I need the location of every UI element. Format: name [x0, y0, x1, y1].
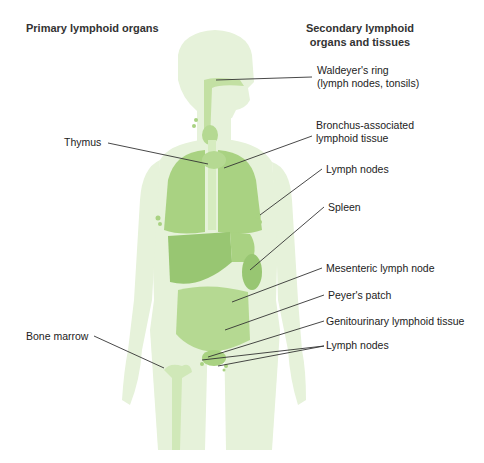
label-peyers-patch: Peyer's patch — [328, 289, 391, 302]
heading-secondary-line2: organs and tissues — [300, 35, 420, 49]
axillary-lymph-node-right — [256, 214, 261, 219]
label-lymph-nodes-inguinal: Lymph nodes — [326, 339, 389, 352]
label-waldeyers-ring: Waldeyer's ring (lymph nodes, tonsils) — [317, 64, 419, 90]
label-thymus: Thymus — [64, 136, 101, 149]
label-balt-line1: Bronchus-associated — [316, 119, 414, 132]
heading-secondary-line1: Secondary lymphoid — [300, 21, 420, 35]
inguinal-lymph-node — [200, 362, 204, 366]
heading-primary: Primary lymphoid organs — [26, 21, 159, 35]
label-spleen: Spleen — [328, 201, 361, 214]
label-genitourinary: Genitourinary lymphoid tissue — [326, 315, 464, 328]
label-waldeyers-line2: (lymph nodes, tonsils) — [317, 77, 419, 90]
label-balt-line2: lymphoid tissue — [316, 132, 414, 145]
intestines — [176, 286, 250, 352]
thymus — [202, 151, 226, 169]
label-bone-marrow: Bone marrow — [26, 330, 88, 343]
spleen — [242, 254, 262, 290]
cervical-lymph-node — [194, 118, 198, 122]
heading-secondary: Secondary lymphoid organs and tissues — [300, 21, 420, 49]
label-mesenteric-lymph-node: Mesenteric lymph node — [326, 262, 435, 275]
label-lymph-nodes-axillary: Lymph nodes — [326, 163, 389, 176]
axillary-lymph-node-left — [156, 216, 161, 221]
label-bronchus-associated: Bronchus-associated lymphoid tissue — [316, 119, 414, 145]
label-waldeyers-line1: Waldeyer's ring — [317, 64, 419, 77]
